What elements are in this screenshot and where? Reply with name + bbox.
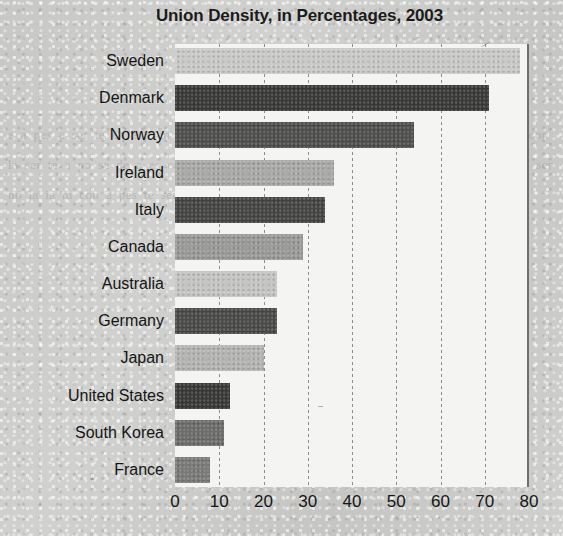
bar-row xyxy=(175,457,527,483)
bar-row xyxy=(175,345,527,371)
y-label-south-korea: South Korea xyxy=(0,420,168,446)
bar-row xyxy=(175,234,527,260)
bar-row xyxy=(175,197,527,223)
y-label-ireland: Ireland xyxy=(0,160,168,186)
bar-sweden xyxy=(175,48,520,74)
y-label-sweden: Sweden xyxy=(0,48,168,74)
bar-row xyxy=(175,85,527,111)
bar-germany xyxy=(175,308,277,334)
bar-france xyxy=(175,457,210,483)
bar-row xyxy=(175,271,527,297)
bar-ireland xyxy=(175,160,334,186)
y-label-france: France xyxy=(0,457,168,483)
y-axis-category-labels: SwedenDenmarkNorwayIrelandItalyCanadaAus… xyxy=(0,44,168,487)
bar-norway xyxy=(175,122,414,148)
bar-row xyxy=(175,160,527,186)
x-tick-80: 80 xyxy=(509,492,549,512)
bar-row xyxy=(175,122,527,148)
y-label-canada: Canada xyxy=(0,234,168,260)
x-tick-60: 60 xyxy=(421,492,461,512)
bar-united-states xyxy=(175,383,230,409)
bar-japan xyxy=(175,345,264,371)
y-label-norway: Norway xyxy=(0,122,168,148)
y-label-united-states: United States xyxy=(0,383,168,409)
y-label-denmark: Denmark xyxy=(0,85,168,111)
bar-row xyxy=(175,48,527,74)
y-label-germany: Germany xyxy=(0,308,168,334)
x-tick-10: 10 xyxy=(199,492,239,512)
bar-row xyxy=(175,383,527,409)
union-density-bar-chart: Union Density, in Percentages, 2003 Swed… xyxy=(0,0,563,536)
bar-row xyxy=(175,420,527,446)
bar-south-korea xyxy=(175,420,224,446)
x-axis-tick-labels: 01020304050607080 xyxy=(0,492,563,522)
chart-title: Union Density, in Percentages, 2003 xyxy=(0,6,563,26)
x-tick-0: 0 xyxy=(155,492,195,512)
x-tick-20: 20 xyxy=(244,492,284,512)
plot-area xyxy=(175,44,529,487)
y-label-japan: Japan xyxy=(0,345,168,371)
x-tick-70: 70 xyxy=(465,492,505,512)
y-label-australia: Australia xyxy=(0,271,168,297)
bar-canada xyxy=(175,234,303,260)
y-label-italy: Italy xyxy=(0,197,168,223)
bar-series xyxy=(175,44,527,487)
x-tick-30: 30 xyxy=(288,492,328,512)
x-tick-50: 50 xyxy=(376,492,416,512)
x-tick-40: 40 xyxy=(332,492,372,512)
bar-australia xyxy=(175,271,277,297)
bar-row xyxy=(175,308,527,334)
bar-italy xyxy=(175,197,325,223)
bar-denmark xyxy=(175,85,489,111)
